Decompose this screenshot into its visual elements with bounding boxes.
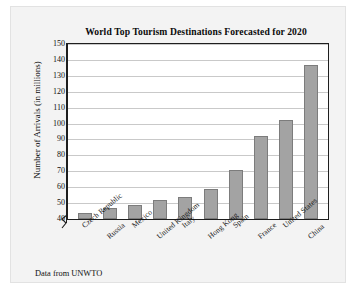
y-tick-label: 130 (53, 72, 65, 80)
bar-slot (274, 44, 299, 219)
screenshot-root: World Top Tourism Destinations Forecaste… (0, 0, 354, 295)
x-tick-label: France (256, 220, 278, 241)
bar-slot (72, 44, 97, 219)
bar-slot (122, 44, 147, 219)
y-tick-label: 60 (57, 183, 65, 191)
y-tick-label: 80 (57, 151, 65, 159)
bar-slot (198, 44, 223, 219)
chart-footnote: Data from UNWTO (35, 269, 102, 278)
plot-area (67, 43, 329, 220)
y-tick-label: 140 (53, 56, 65, 64)
y-tick-label: 150 (53, 40, 65, 48)
y-tick-label: 90 (57, 135, 65, 143)
y-tick-label: 70 (57, 167, 65, 175)
bar-france (254, 136, 268, 219)
bar-hong-kong (204, 189, 218, 219)
y-axis-tick-labels: 405060708090100110120130140150 (35, 43, 65, 220)
bar-united-kingdom (153, 200, 167, 219)
y-tick-label: 100 (53, 120, 65, 128)
x-axis-tick-labels: Czech RepublicRussiaMexicoUnited Kingdom… (67, 221, 329, 273)
y-tick-label: 50 (57, 199, 65, 207)
bar-slot (173, 44, 198, 219)
y-tick-label: 120 (53, 88, 65, 96)
y-tick-label: 110 (53, 104, 65, 112)
chart-card: World Top Tourism Destinations Forecaste… (10, 6, 346, 283)
bar-slot (248, 44, 273, 219)
bar-slot (223, 44, 248, 219)
x-tick-label: China (306, 222, 326, 241)
bar-series (68, 44, 328, 219)
bar-slot (148, 44, 173, 219)
x-tick-label: Russia (105, 221, 127, 241)
chart-title: World Top Tourism Destinations Forecaste… (51, 26, 341, 37)
bar-united-states (279, 120, 293, 219)
bar-slot (299, 44, 324, 219)
